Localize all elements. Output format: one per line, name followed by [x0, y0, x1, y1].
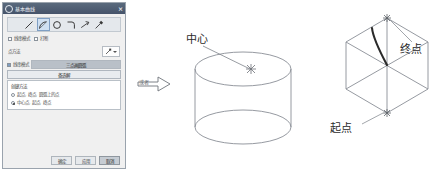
creation-method-label: 创建方法: [11, 83, 117, 90]
break-label: 打断: [40, 35, 48, 42]
tab-strip: 线串模式 三点画圆弧: [7, 60, 121, 69]
hexagon-shape: [346, 18, 428, 113]
start-point-leader-line: [362, 113, 383, 124]
dialog-footer: 确定 应用 取消: [3, 156, 125, 165]
center-leader-line: [203, 46, 250, 69]
tab-three-point-arc[interactable]: 三点画圆弧: [31, 60, 121, 69]
radio-start-end-point[interactable]: [11, 93, 15, 97]
break-checkbox[interactable]: [34, 37, 38, 41]
chevron-down-icon: [113, 51, 117, 53]
hexagon-vertex-markers: [383, 14, 391, 117]
end-point-label: 终点: [400, 40, 422, 56]
arc-highlight: [372, 28, 387, 65]
end-point-leader-line: [390, 20, 412, 42]
arrow-label: 或者: [139, 78, 149, 85]
ok-button[interactable]: 确定: [51, 156, 72, 165]
point-constructor-button[interactable]: [102, 46, 120, 57]
close-icon[interactable]: ×: [116, 6, 123, 12]
option-start-end-point[interactable]: 起点, 终点, 圆弧上的点: [11, 91, 117, 98]
fillet-tool-icon[interactable]: [65, 18, 78, 31]
basic-curve-dialog: 基本曲线 × 线串模式 打断 点方法: [2, 2, 126, 169]
radio-center-start-end[interactable]: [11, 101, 15, 105]
point-method-row: 点方法: [3, 45, 125, 58]
edit-curve-tool-icon[interactable]: [93, 18, 106, 31]
start-point-marker: [383, 109, 391, 117]
dialog-titlebar: 基本曲线 ×: [3, 3, 125, 14]
option-center-start-end-label: 中心点, 起点, 终点: [17, 99, 51, 106]
dialog-title: 基本曲线: [15, 6, 116, 12]
cancel-button[interactable]: 取消: [99, 156, 120, 165]
wire-mode-checkbox[interactable]: [7, 63, 11, 67]
dialog-app-icon: [5, 5, 13, 13]
circle-tool-icon[interactable]: [51, 18, 64, 31]
point-method-label: 点方法: [8, 48, 20, 55]
mode-checkbox-row: 线串模式 打断: [3, 35, 125, 42]
wire-mode-label: 线串模式: [13, 61, 29, 68]
point-constructor-icon: [105, 48, 112, 55]
cylinder-center-marker: [246, 64, 256, 74]
string-mode-label: 线串模式: [14, 35, 30, 42]
arc-tool-icon[interactable]: [37, 18, 50, 31]
curve-tool-toolbar: [7, 17, 121, 32]
string-mode-checkbox[interactable]: [8, 37, 12, 41]
tab-alternate-solution[interactable]: 备选解: [7, 70, 121, 79]
start-point-label: 起点: [330, 119, 352, 135]
option-center-start-end[interactable]: 中心点, 起点, 终点: [11, 99, 117, 106]
option-start-end-label: 起点, 终点, 圆弧上的点: [17, 91, 59, 98]
apply-button[interactable]: 应用: [75, 156, 96, 165]
center-label: 中心: [186, 30, 208, 46]
trim-tool-icon[interactable]: [79, 18, 92, 31]
end-point-marker: [383, 14, 391, 22]
line-tool-icon[interactable]: [23, 18, 36, 31]
creation-method-panel: 创建方法 起点, 终点, 圆弧上的点 中心点, 起点, 终点: [7, 80, 121, 110]
cylinder-shape: [195, 52, 291, 144]
wire-mode-lead: 线串模式: [7, 60, 31, 69]
